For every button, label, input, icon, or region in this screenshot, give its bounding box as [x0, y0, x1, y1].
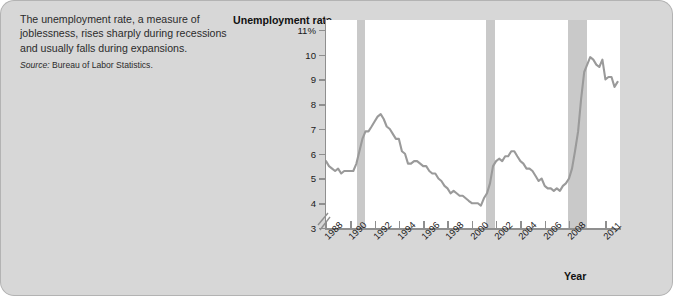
y-tick-label: 9	[311, 74, 316, 85]
unemployment-line	[326, 20, 620, 228]
y-tick-label: 6	[311, 148, 316, 159]
source-text: Bureau of Labor Statistics.	[50, 60, 153, 70]
y-tick-label: 3	[311, 223, 316, 234]
x-axis-title: Year	[564, 270, 586, 282]
y-tick-label: 5	[311, 173, 316, 184]
caption-block: The unemployment rate, a measure of jobl…	[20, 12, 232, 70]
y-tick-label: 4	[311, 198, 316, 209]
y-tick-label: 8	[311, 99, 316, 110]
source-label: Source:	[20, 60, 50, 70]
plot-area	[326, 20, 620, 228]
y-tick-label: 7	[311, 123, 316, 134]
y-axis-tick-labels: 34567891011%	[280, 8, 316, 238]
caption-source: Source: Bureau of Labor Statistics.	[20, 60, 232, 70]
y-tick-label: 11%	[298, 24, 317, 35]
axis-break-icon	[317, 211, 337, 235]
caption-text: The unemployment rate, a measure of jobl…	[20, 12, 232, 55]
y-tick-label: 10	[305, 49, 316, 60]
unemployment-rate-chart: Unemployment rate 34567891011% 198819901…	[236, 8, 666, 288]
figure-card: The unemployment rate, a measure of jobl…	[0, 0, 673, 296]
